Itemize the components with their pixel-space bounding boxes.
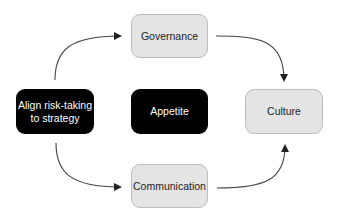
node-align-risk-taking: Align risk-taking to strategy: [16, 89, 94, 134]
node-label: Governance: [141, 30, 198, 43]
node-label: Communication: [133, 180, 206, 193]
node-label: Culture: [267, 105, 301, 118]
arrow-align-to-communication: [56, 143, 120, 187]
arrow-align-to-governance: [55, 36, 120, 80]
arrow-governance-to-culture: [216, 36, 284, 80]
node-label: Appetite: [150, 105, 189, 118]
arrow-communication-to-culture: [217, 146, 285, 188]
node-governance: Governance: [131, 14, 208, 58]
node-appetite: Appetite: [131, 89, 208, 134]
node-label-line2: to strategy: [30, 112, 79, 125]
node-culture: Culture: [245, 89, 323, 134]
node-label-line1: Align risk-taking: [18, 99, 92, 112]
node-communication: Communication: [131, 164, 208, 208]
